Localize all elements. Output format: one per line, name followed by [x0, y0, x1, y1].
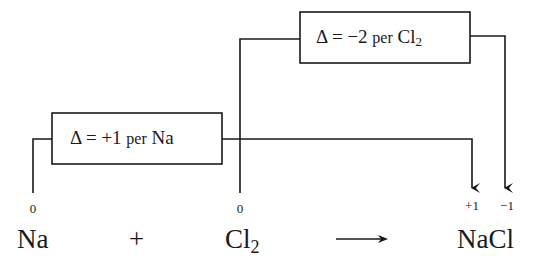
- cl-connector: [240, 39, 300, 193]
- na-change-label: Δ = +1 per Na: [70, 128, 174, 147]
- na-connector: [33, 139, 52, 193]
- reactant-na: Na: [17, 226, 48, 253]
- nacl-cl-oxidation-number: −1: [500, 199, 514, 212]
- cl-to-product-connector: [470, 36, 505, 188]
- reactant-cl2: Cl2: [225, 226, 260, 253]
- cl2-oxidation-number: 0: [237, 202, 244, 215]
- product-nacl: NaCl: [457, 226, 514, 253]
- na-oxidation-number: 0: [30, 202, 37, 215]
- nacl-na-oxidation-number: +1: [465, 199, 479, 212]
- cl-change-label: Δ = −2 per Cl2: [316, 27, 422, 46]
- delta-symbol: Δ: [316, 26, 327, 47]
- plus-sign: +: [129, 226, 144, 253]
- delta-symbol: Δ: [70, 127, 81, 148]
- na-to-product-connector: [222, 139, 472, 188]
